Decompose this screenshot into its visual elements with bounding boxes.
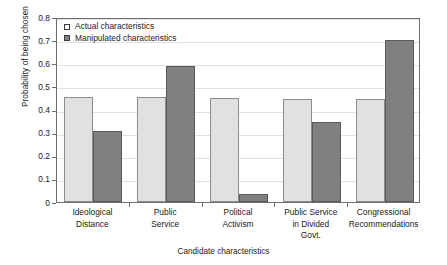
x-category-label-line: Recommendations [337,219,430,231]
bar-manipulated-0 [93,131,122,202]
bar-manipulated-1 [166,66,195,202]
y-tick-label: 0.2 [22,151,50,161]
x-category-label-line: Congressional [337,207,430,219]
bar-actual-3 [283,99,312,202]
y-tick-label: 0.1 [22,174,50,184]
y-tick-label: 0.7 [22,36,50,46]
legend-swatch-actual-icon [64,24,70,30]
y-tick-label: 0.6 [22,59,50,69]
y-tick-label: 0.4 [22,105,50,115]
bar-manipulated-3 [312,122,341,202]
bar-chart-figure: Probability of being chosen 00.10.20.30.… [0,0,447,265]
bar-manipulated-4 [385,40,414,202]
legend-label-actual: Actual characteristics [75,21,154,33]
y-tick-label: 0 [22,198,50,208]
x-axis-title: Candidate characteristics [0,247,447,256]
plot-area [56,18,420,203]
legend-swatch-manipulated-icon [64,35,70,41]
y-tick-label: 0.5 [22,82,50,92]
bar-manipulated-2 [239,194,268,202]
y-tick-label: 0.8 [22,13,50,23]
y-tick-mark [52,203,56,204]
bar-actual-0 [64,97,93,202]
bar-series-container [57,19,419,202]
x-category-label-line: Govt. [264,230,357,242]
bar-actual-4 [356,99,385,202]
legend-item-manipulated: Manipulated characteristics [64,33,176,45]
legend-label-manipulated: Manipulated characteristics [75,33,176,45]
chart-legend: Actual characteristics Manipulated chara… [64,21,176,44]
legend-item-actual: Actual characteristics [64,21,176,33]
x-category-label: CongressionalRecommendations [337,207,430,230]
bar-actual-1 [137,97,166,202]
bar-actual-2 [210,98,239,202]
y-tick-label: 0.3 [22,128,50,138]
